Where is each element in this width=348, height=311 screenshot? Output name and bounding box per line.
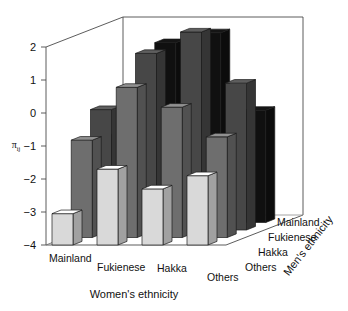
y-axis-title-subscript: ij bbox=[17, 145, 21, 152]
y-tick-label: −2 bbox=[23, 173, 36, 185]
y-tick-label: −3 bbox=[23, 206, 36, 218]
y-tick-label: −4 bbox=[23, 239, 36, 251]
x-category-label: Mainland bbox=[49, 252, 92, 264]
bar-group bbox=[52, 28, 275, 245]
x-category-labels: Mainland Fukienese Hakka Others bbox=[49, 252, 239, 283]
bar-front-face bbox=[97, 169, 118, 245]
y-tick-label: −1 bbox=[23, 140, 36, 152]
bar-side-face bbox=[247, 80, 256, 230]
x-axis-title: Women's ethnicity bbox=[90, 288, 179, 300]
chart-figure: 2 1 0 −1 −2 −3 −4 πij Mainland Fukienese… bbox=[0, 0, 348, 311]
bar-mainland-others bbox=[187, 172, 217, 245]
figure-caption bbox=[2, 302, 346, 311]
bar-side-face bbox=[73, 210, 82, 245]
bar-mainland-fukienese bbox=[97, 166, 127, 246]
x-category-label: Fukienese bbox=[97, 261, 146, 273]
bar-side-face bbox=[118, 166, 127, 246]
z-category-label: Mainland bbox=[277, 216, 320, 228]
bar-front-face bbox=[52, 214, 73, 245]
x-category-label: Others bbox=[207, 271, 239, 283]
bar-mainland-hakka bbox=[142, 185, 172, 245]
y-tick-labels: 2 1 0 −1 −2 −3 −4 bbox=[23, 41, 36, 251]
bar-front-face bbox=[187, 176, 208, 245]
x-category-label: Hakka bbox=[157, 262, 187, 274]
z-category-label: Hakka bbox=[258, 246, 288, 258]
bar-side-face bbox=[208, 172, 217, 245]
y-tick-marks bbox=[41, 47, 46, 245]
bar-mainland-mainland bbox=[52, 210, 82, 245]
bar-front-face bbox=[142, 189, 163, 245]
y-tick-label: 1 bbox=[30, 74, 36, 86]
bar-side-face bbox=[266, 107, 275, 223]
svg-text:πij: πij bbox=[12, 139, 21, 152]
z-category-label: Others bbox=[245, 261, 277, 273]
y-tick-label: 2 bbox=[30, 41, 36, 53]
bar-side-face bbox=[227, 133, 236, 237]
y-tick-label: 0 bbox=[30, 107, 36, 119]
bar-side-face bbox=[163, 185, 172, 245]
y-axis-title: πij bbox=[12, 139, 21, 152]
bar-chart-3d: 2 1 0 −1 −2 −3 −4 πij Mainland Fukienese… bbox=[0, 0, 348, 311]
back-left-top-edge bbox=[46, 17, 123, 47]
